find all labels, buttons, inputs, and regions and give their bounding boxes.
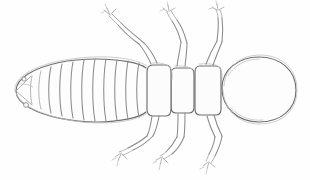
foreleg-left-tibia-a (109, 16, 118, 25)
midleg-right-coxa (177, 114, 178, 137)
foreleg-left-femur-top (118, 25, 139, 44)
hindleg-right-femur-a (209, 137, 215, 154)
hindleg-right-tibia-a (206, 154, 209, 161)
midleg-left-claw-tips (160, 2, 168, 11)
hindleg-left-femur-b (222, 18, 223, 42)
hindleg-right-coxa-edge (214, 115, 222, 136)
sketch-canvas (0, 0, 310, 180)
foreleg-left-tibia-b (112, 14, 121, 23)
thorax-group (147, 63, 222, 116)
hindleg-right-femur-b (215, 136, 222, 156)
midleg-left-femur-b (177, 20, 187, 43)
midleg-right-femur-a (166, 137, 177, 152)
upper-legs-group (101, 1, 224, 66)
foreleg-right-coxa-edge (153, 116, 159, 136)
foreleg-right-femur-b (133, 136, 153, 150)
foreleg-right-tibia-b (123, 150, 133, 155)
prothorax-fill (195, 66, 221, 115)
cercus-upper-icon (22, 77, 26, 81)
hindleg-left-upper (206, 1, 224, 65)
insect-sketch (0, 0, 310, 180)
foreleg-left-femur-bottom (121, 23, 144, 43)
foreleg-left-claw-icon (104, 8, 116, 15)
hindleg-left-tibia-a (216, 10, 218, 18)
hindleg-right-claw-icon (203, 162, 215, 169)
midleg-left-coxa (177, 42, 181, 66)
hindleg-right-tibia-b (211, 156, 215, 163)
abdomen-group (15, 57, 147, 123)
hindleg-left-claw-icon (212, 4, 224, 10)
foreleg-left-coxa (139, 44, 151, 64)
cercus-lower-icon (24, 103, 29, 108)
hindleg-left-tibia-b (220, 10, 222, 18)
foreleg-left-upper (101, 4, 157, 64)
foreleg-right-tibia-a (119, 148, 128, 152)
midleg-right-femur-b (172, 137, 184, 154)
mesothorax-fill (171, 68, 194, 113)
hindleg-right-lower (200, 115, 222, 174)
midleg-left-tibia-b (171, 11, 177, 20)
foreleg-right-lower (112, 116, 159, 166)
midleg-right-coxa-edge (184, 113, 185, 137)
midleg-right-tibia-b (164, 154, 172, 159)
head-group (220, 55, 297, 124)
midleg-left-tibia-a (167, 12, 172, 21)
hindleg-right-coxa (207, 116, 215, 137)
midleg-left-coxa-edge (185, 43, 187, 66)
hindleg-left-femur-a (217, 18, 218, 41)
midleg-left-claw-icon (163, 5, 175, 12)
hindleg-right-claw-tips (200, 167, 207, 174)
lower-legs-group (112, 113, 222, 174)
midleg-right-claw-tips (153, 161, 160, 170)
metathorax-fill (147, 65, 171, 116)
hindleg-left-claw-tips (209, 1, 217, 9)
foreleg-right-coxa (147, 116, 152, 136)
midleg-right-tibia-a (160, 152, 166, 156)
foreleg-right-femur-a (128, 136, 147, 148)
hindleg-left-coxa (206, 41, 217, 64)
midleg-left-upper (160, 2, 187, 66)
foreleg-right-claw-tips (112, 158, 118, 166)
